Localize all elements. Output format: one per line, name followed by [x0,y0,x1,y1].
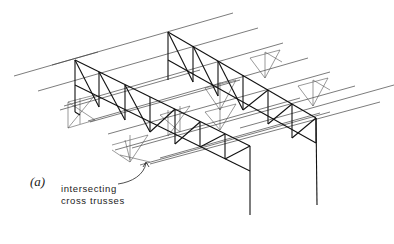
truss-drawing [0,0,394,244]
annotation-line-1: intersecting [61,183,117,195]
figure-label: (a) [30,174,45,190]
annotation-arrow [118,162,149,184]
cross-trusses [68,50,330,162]
truss-diagram: (a) intersecting cross trusses [0,0,394,244]
annotation-line-2: cross trusses [61,195,125,207]
purlin-lines [14,13,394,165]
